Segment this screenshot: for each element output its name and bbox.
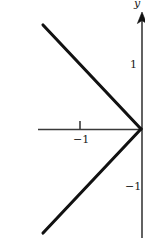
math-plot-figure: y 1 −1 −1 [0,0,145,244]
plot-canvas [0,0,145,244]
x-axis-tick-label-neg1: −1 [73,134,89,145]
y-axis-tick-label-neg1: −1 [125,181,141,192]
y-axis-tick-label-1: 1 [130,59,137,70]
y-axis-label: y [134,0,140,9]
curve-upper-ray [43,25,141,129]
